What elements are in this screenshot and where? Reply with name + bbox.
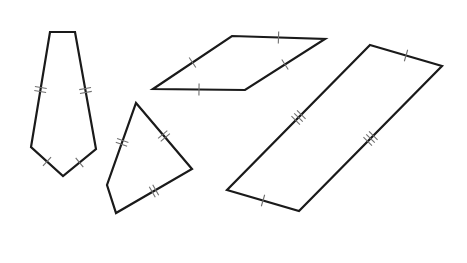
parallelogram-outline xyxy=(227,45,442,211)
geometry-figure xyxy=(0,0,467,263)
kite-shape xyxy=(31,32,96,176)
rhombus-outline xyxy=(153,36,325,90)
parallelogram-shape xyxy=(227,45,442,211)
quadrilateral-shape xyxy=(107,103,192,213)
kite-outline xyxy=(31,32,96,176)
congruence-tick-mark xyxy=(189,58,196,68)
congruence-tick-mark xyxy=(282,59,288,69)
rhombus-shape xyxy=(153,32,325,96)
quadrilateral-double-ticks-outline xyxy=(107,103,192,213)
